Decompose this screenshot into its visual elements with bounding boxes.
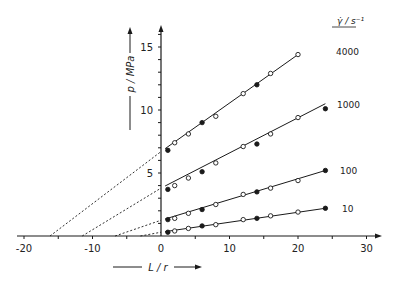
series-label-4000: 4000: [336, 47, 359, 57]
filled-marker: [200, 170, 204, 174]
open-marker: [241, 217, 245, 221]
series-labels: 4000100010010: [336, 47, 360, 214]
filled-marker: [166, 230, 170, 234]
open-marker: [173, 216, 177, 220]
open-marker: [186, 226, 190, 230]
x-tick-label: 30: [360, 243, 373, 254]
open-marker: [173, 229, 177, 233]
filled-marker: [166, 187, 170, 191]
open-marker: [186, 132, 190, 136]
open-marker: [214, 161, 218, 165]
open-marker: [268, 186, 272, 190]
filled-marker: [255, 190, 259, 194]
open-marker: [268, 214, 272, 218]
filled-marker: [255, 142, 259, 146]
open-marker: [268, 71, 272, 75]
open-marker: [296, 178, 300, 182]
x-tick-label: 20: [292, 243, 305, 254]
open-marker: [296, 52, 300, 56]
fit-line-1000: [165, 104, 325, 186]
y-axis-title-group: p / MPa: [125, 27, 136, 130]
series-label-10: 10: [342, 204, 354, 214]
x-axis-title-group: L / r: [113, 262, 202, 273]
extrapolation-lines: [50, 152, 161, 236]
filled-marker: [255, 83, 259, 87]
x-tick-label: 10: [223, 243, 236, 254]
open-marker: [241, 91, 245, 95]
open-marker: [214, 222, 218, 226]
x-tick-label: -10: [84, 243, 100, 254]
x-tick-label: 0: [158, 243, 164, 254]
axes: -20-10010203051015: [16, 25, 382, 254]
y-title-arrow-icon: [128, 27, 133, 34]
fit-line-4000: [165, 55, 298, 149]
y-axis-title: p / MPa: [125, 56, 136, 94]
x-title-arrow-icon: [195, 265, 202, 270]
filled-marker: [255, 216, 259, 220]
open-marker: [296, 210, 300, 214]
open-marker: [173, 141, 177, 145]
series-label-1000: 1000: [337, 100, 360, 110]
filled-marker: [166, 217, 170, 221]
filled-marker: [323, 168, 327, 172]
open-marker: [186, 176, 190, 180]
extrapolation-line-4000: [50, 152, 161, 236]
data-series: [165, 52, 327, 234]
x-tick-label: -20: [16, 243, 32, 254]
chart-canvas: -20-10010203051015 4000100010010 p / MPa…: [0, 0, 395, 286]
open-marker: [214, 114, 218, 118]
open-marker: [186, 211, 190, 215]
x-axis-title: L / r: [148, 262, 168, 273]
x-axis-arrow-icon: [375, 234, 382, 239]
open-marker: [241, 192, 245, 196]
series-label-100: 100: [340, 166, 357, 176]
open-marker: [241, 144, 245, 148]
y-tick-label: 15: [140, 42, 153, 53]
filled-marker: [200, 207, 204, 211]
y-axis-arrow-icon: [159, 25, 164, 32]
filled-marker: [323, 206, 327, 210]
legend-title: γ̇ / s⁻¹: [337, 16, 365, 26]
extrapolation-line-1000: [82, 188, 161, 236]
legend-title-group: γ̇ / s⁻¹: [332, 16, 365, 27]
filled-marker: [200, 120, 204, 124]
filled-marker: [200, 224, 204, 228]
filled-marker: [166, 148, 170, 152]
open-marker: [214, 202, 218, 206]
y-tick-label: 5: [147, 168, 153, 179]
open-marker: [268, 132, 272, 136]
open-marker: [173, 183, 177, 187]
filled-marker: [323, 107, 327, 111]
open-marker: [296, 115, 300, 119]
y-tick-label: 10: [140, 105, 153, 116]
